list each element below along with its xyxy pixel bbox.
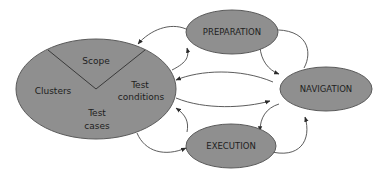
main-node: Scope Clusters Test conditions Test case… [16, 39, 176, 139]
edge-main-to-navigation [176, 98, 270, 107]
node-navigation: NAVIGATION [280, 67, 372, 111]
segment-test-cases-line2: cases [84, 121, 110, 131]
edge-main-to-execution [137, 133, 186, 152]
edge-preparation-to-main [138, 26, 186, 44]
segment-clusters: Clusters [35, 86, 72, 96]
edge-navigation-to-execution [260, 104, 279, 131]
segment-test-conditions-line2: conditions [118, 92, 165, 102]
segment-scope: Scope [82, 56, 110, 66]
execution-label: EXECUTION [206, 141, 255, 151]
edge-main-to-preparation [172, 48, 188, 70]
edge-execution-to-main [176, 108, 188, 132]
segment-test-cases-line1: Test [87, 108, 106, 118]
navigation-label: NAVIGATION [300, 84, 352, 94]
segment-test-conditions-line1: Test [130, 80, 149, 90]
edge-preparation-to-navigation [260, 47, 279, 74]
node-execution: EXECUTION [186, 124, 276, 168]
test-process-diagram: Scope Clusters Test conditions Test case… [0, 0, 378, 180]
node-preparation: PREPARATION [186, 10, 278, 54]
preparation-label: PREPARATION [203, 27, 261, 37]
edge-navigation-to-main [176, 72, 273, 82]
